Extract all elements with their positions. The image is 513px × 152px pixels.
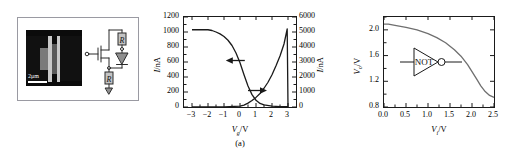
y-tick-label-left: 200 xyxy=(153,86,179,95)
sem-and-circuit-panel: 2μm xyxy=(17,17,139,101)
y-tick-label-right: 2000 xyxy=(299,71,315,80)
not-gate-label: NOT xyxy=(415,57,434,67)
x-tick-label-transfer: 1 xyxy=(250,110,260,119)
y-tick-label-right: 5000 xyxy=(299,26,315,35)
y-tick-label-right: 6000 xyxy=(299,11,315,20)
not-gate-symbol: NOT xyxy=(400,45,464,79)
y-tick-label-inverter: 1.6 xyxy=(357,50,379,59)
scale-bar: 2μm xyxy=(28,73,47,83)
scale-bar-line xyxy=(28,81,47,83)
y-axis-right-title: I/nA xyxy=(315,57,325,73)
y-tick-label-left: 600 xyxy=(153,56,179,65)
plot-area-inverter: NOT xyxy=(383,16,495,108)
x-tick-label-transfer: −3 xyxy=(186,110,196,119)
scale-bar-label: 2μm xyxy=(28,73,47,80)
x-tick-label-transfer: −2 xyxy=(202,110,212,119)
x-axis-title-inverter: Vi/V xyxy=(431,124,446,136)
y-tick-label-left: 1000 xyxy=(153,26,179,35)
x-tick-label-transfer: 0 xyxy=(234,110,244,119)
plot-area-transfer xyxy=(183,16,297,108)
transfer-characteristics-chart: I/nA I/nA Vg/V (a) 020040060080010001200… xyxy=(150,6,325,152)
x-tick-label-transfer: 3 xyxy=(282,110,292,119)
y-tick-label-inverter: 2.0 xyxy=(357,24,379,33)
circuit-schematic: R R xyxy=(84,24,136,96)
y-tick-label-inverter: 1.2 xyxy=(357,75,379,84)
inverter-transfer-chart: NOT Vo/V Vi/V 0.81.21.62.00.00.51.01.52.… xyxy=(345,6,510,152)
x-tick-label-inverter: 2.0 xyxy=(462,110,480,119)
y-tick-label-right: 0 xyxy=(299,101,303,110)
y-tick-label-left: 800 xyxy=(153,41,179,50)
figure-caption: (a) xyxy=(235,138,244,148)
y-tick-label-left: 1200 xyxy=(153,11,179,20)
x-tick-label-inverter: 2.5 xyxy=(484,110,502,119)
y-tick-label-left: 0 xyxy=(153,101,179,110)
transfer-curves xyxy=(184,17,296,107)
resistor-top-label: R xyxy=(119,36,125,45)
y-tick-label-right: 4000 xyxy=(299,41,315,50)
y-tick-label-left: 400 xyxy=(153,71,179,80)
y-tick-label-inverter: 0.8 xyxy=(357,101,379,110)
x-tick-label-inverter: 1.0 xyxy=(418,110,436,119)
figure-panel-a: 2μm xyxy=(0,0,513,152)
x-tick-label-inverter: 0.5 xyxy=(396,110,414,119)
x-tick-label-inverter: 0.0 xyxy=(374,110,392,119)
x-axis-title-transfer: Vg/V xyxy=(232,124,249,136)
x-tick-label-transfer: 2 xyxy=(266,110,276,119)
y-axis-title-inverter: Vo/V xyxy=(352,58,364,75)
sem-micrograph: 2μm xyxy=(26,30,82,86)
x-tick-label-transfer: −1 xyxy=(218,110,228,119)
y-tick-label-right: 1000 xyxy=(299,86,315,95)
resistor-bottom-label: R xyxy=(106,75,112,84)
x-tick-label-inverter: 1.5 xyxy=(440,110,458,119)
y-tick-label-right: 3000 xyxy=(299,56,315,65)
